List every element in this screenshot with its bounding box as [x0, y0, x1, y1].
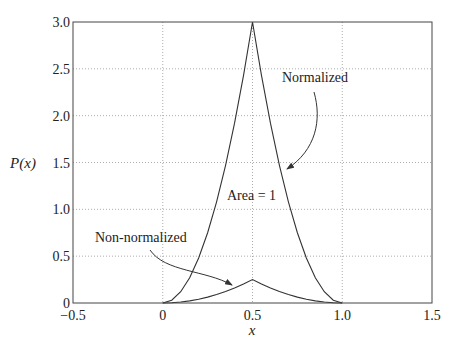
tick-labels: −0.500.51.01.500.51.01.52.02.53.0 [53, 15, 441, 323]
annotation-normalized: Normalized [282, 70, 348, 85]
x-axis-label: x [248, 322, 256, 338]
y-tick-label: 2.0 [53, 109, 71, 124]
y-tick-label: 1.0 [53, 202, 71, 217]
y-tick-label: 0.5 [53, 249, 71, 264]
annotation-non-normalized: Non-normalized [95, 230, 187, 245]
y-axis-label: P(x) [9, 155, 36, 172]
grid [73, 22, 432, 303]
arrow-non-normalized [150, 250, 232, 285]
y-tick-label: 0 [63, 296, 70, 311]
x-tick-label: 0 [159, 308, 166, 323]
annotation-area: Area = 1 [227, 188, 276, 203]
y-tick-label: 1.5 [53, 156, 71, 171]
x-tick-label: 1.0 [334, 308, 352, 323]
y-tick-label: 2.5 [53, 62, 71, 77]
arrow-normalized [287, 92, 317, 169]
x-tick-label: 1.5 [423, 308, 441, 323]
y-tick-label: 3.0 [53, 15, 71, 30]
x-tick-label: 0.5 [244, 308, 262, 323]
chart: −0.500.51.01.500.51.01.52.02.53.0 x P(x)… [0, 0, 460, 349]
